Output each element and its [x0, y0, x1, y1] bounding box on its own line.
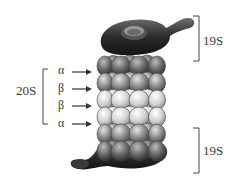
- proteasome-diagram: 20S 19S 19S α β β α: [0, 0, 236, 184]
- arrow-icon: [72, 86, 92, 92]
- label-19s-bottom: 19S: [203, 144, 223, 157]
- ring-interface-bottom: [97, 140, 166, 161]
- ring-arrows: [72, 69, 92, 127]
- ring-label-2: β: [58, 82, 64, 94]
- core-particle-20s: [97, 55, 166, 161]
- bracket-19s-bottom: [193, 128, 199, 173]
- label-20s: 20S: [16, 84, 36, 97]
- label-19s-top: 19S: [203, 34, 223, 47]
- subunit: [129, 141, 149, 161]
- ring-label-1: α: [58, 64, 64, 76]
- subunit: [111, 141, 131, 161]
- arrow-icon: [72, 103, 92, 109]
- ring-label-3: β: [58, 99, 64, 111]
- ring-label-4: α: [58, 117, 64, 129]
- subunit: [97, 141, 113, 161]
- arrow-icon: [72, 121, 92, 127]
- bracket-20s: [43, 69, 48, 124]
- cap-top: [101, 18, 194, 55]
- arrow-icon: [72, 69, 92, 75]
- subunit: [149, 141, 166, 161]
